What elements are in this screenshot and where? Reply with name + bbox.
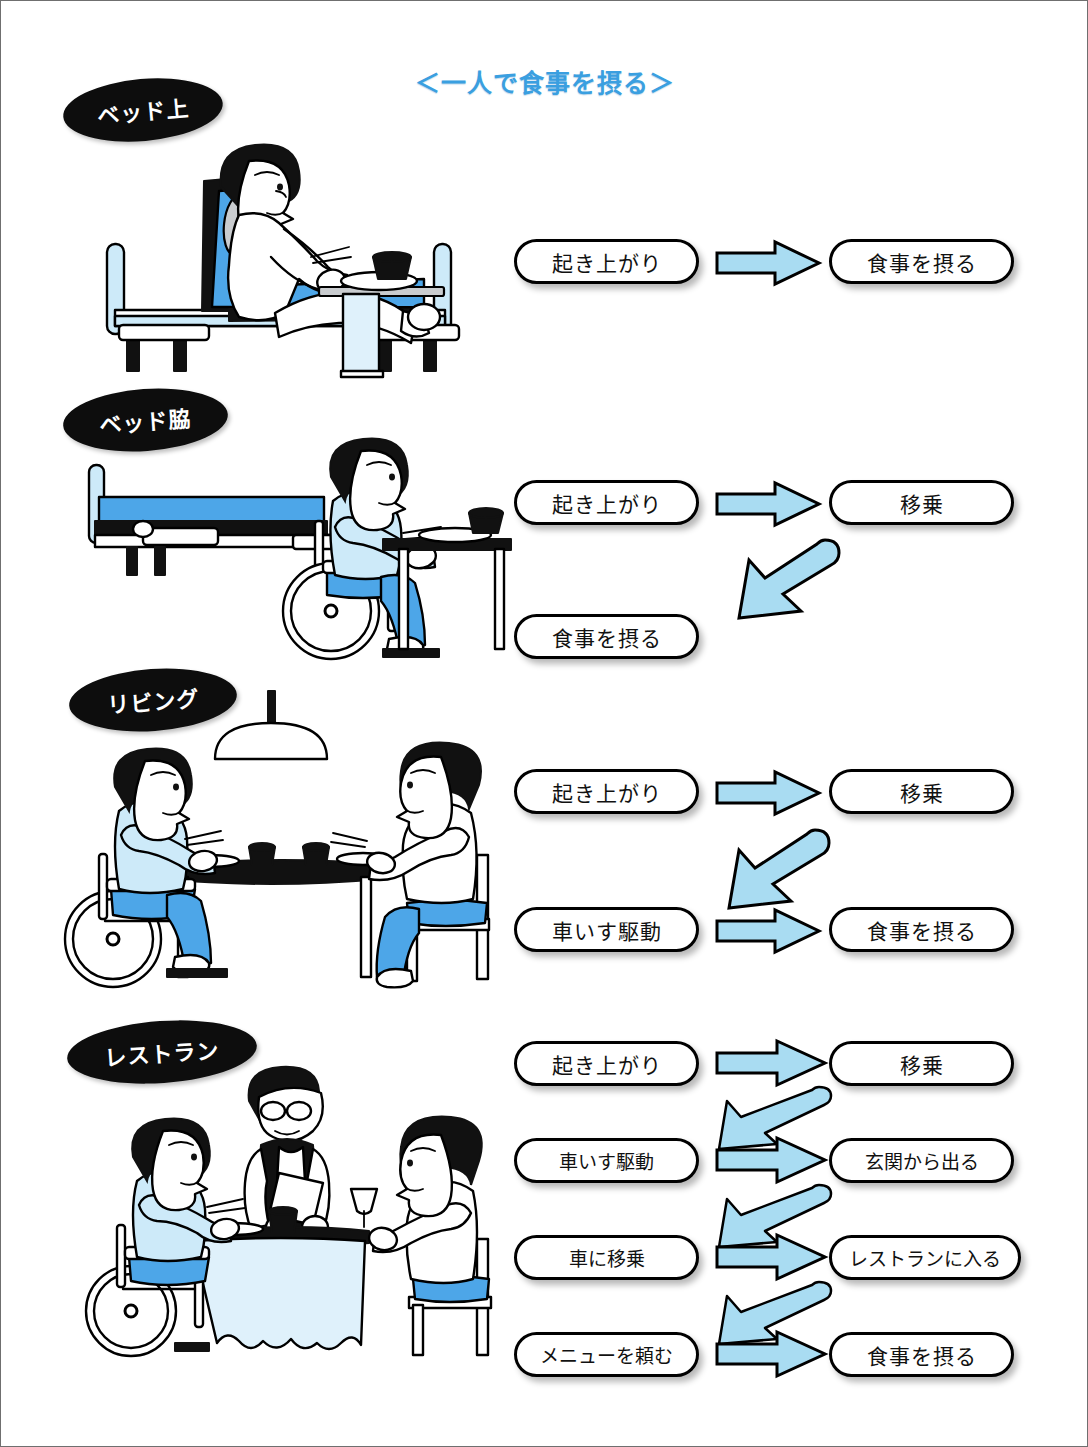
flow-pill-r4-s4[interactable]: 車に移乗 [514,1235,699,1280]
flow-pill-r4-s5[interactable]: レストランに入る [829,1235,1021,1280]
block-arrow-right-icon [713,1232,831,1282]
flow-pill-label: 移乗 [900,1049,944,1079]
flow-pill-label: レストランに入る [849,1244,1001,1271]
flow-pill-label: 玄関から出る [865,1147,979,1174]
block-arrow-right-icon [713,1135,831,1185]
flow-pill-label: 食事を摂る [867,915,977,945]
flow-pill-label: 車いす駆動 [559,1147,654,1174]
illustration-bed-on [79,129,479,374]
scene-label-text: ベッド上 [96,90,190,130]
flow-pill-r3-mid2[interactable]: 車いす駆動 [514,907,699,952]
illustration-living [63,689,513,989]
illustration-restaurant [83,1063,513,1373]
diagram-page: ＜一人で食事を摂る＞ ベッド上 [0,0,1088,1447]
flow-pill-label: 食事を摂る [867,1340,977,1370]
flow-pill-label: 車いす駆動 [552,915,662,945]
flow-pill-r4-s3[interactable]: 玄関から出る [829,1138,1014,1183]
flow-pill-label: 起き上がり [552,488,662,518]
flow-pill-label: 車に移乗 [569,1244,645,1271]
block-arrow-right-icon [713,1038,831,1088]
flow-pill-label: 移乗 [900,488,944,518]
flow-pill-label: 食事を摂る [552,622,662,652]
block-arrow-right-icon [713,769,823,817]
flow-pill-label: 起き上がり [552,247,662,277]
block-arrow-right-icon [713,480,823,528]
flow-pill-r3-mid1[interactable]: 移乗 [829,769,1014,814]
illustration-bedside [83,421,513,666]
block-arrow-down-left-icon [729,534,849,624]
flow-pill-r2-end[interactable]: 食事を摂る [514,614,699,659]
flow-pill-r4-start[interactable]: 起き上がり [514,1041,699,1086]
flow-pill-label: 起き上がり [552,777,662,807]
flow-pill-label: 起き上がり [552,1049,662,1079]
flow-pill-r1-end[interactable]: 食事を摂る [829,239,1014,284]
block-arrow-right-icon [713,907,823,955]
flow-pill-r1-start[interactable]: 起き上がり [514,239,699,284]
flow-pill-label: メニューを頼む [540,1341,673,1368]
flow-pill-r4-s1[interactable]: 移乗 [829,1041,1014,1086]
flow-pill-r2-start[interactable]: 起き上がり [514,480,699,525]
flow-pill-label: 食事を摂る [867,247,977,277]
flow-pill-r3-start[interactable]: 起き上がり [514,769,699,814]
flow-pill-r3-end[interactable]: 食事を摂る [829,907,1014,952]
flow-pill-r4-s2[interactable]: 車いす駆動 [514,1138,699,1183]
block-arrow-right-icon [713,239,823,287]
flow-pill-r4-end[interactable]: 食事を摂る [829,1332,1014,1377]
flow-pill-r4-s6[interactable]: メニューを頼む [514,1332,699,1377]
block-arrow-right-icon [713,1329,831,1379]
block-arrow-down-left-icon [719,824,839,916]
flow-pill-r2-mid[interactable]: 移乗 [829,480,1014,525]
flow-pill-label: 移乗 [900,777,944,807]
